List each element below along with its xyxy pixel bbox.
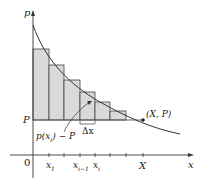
origin-label: 0	[24, 158, 30, 168]
tick-xim1: xi−1	[73, 161, 89, 172]
delta-x-bracket	[80, 121, 95, 124]
diagram-graphics	[0, 0, 200, 180]
delta-x-label: Δx	[82, 127, 94, 136]
y-axis-label: p	[24, 8, 30, 18]
y-axis-arrow	[31, 10, 35, 16]
tick-X: X	[139, 161, 146, 171]
consumer-surplus-diagram: p x 0 P (X, P) Δx p(xi) − P x1 xi−1 xi X	[0, 0, 200, 180]
point-label: (X, P)	[146, 110, 171, 119]
point-XP	[141, 118, 145, 122]
tick-xi: xi	[93, 161, 100, 172]
P-label: P	[23, 115, 30, 125]
height-label: p(xi) − P	[36, 132, 75, 143]
tick-x1: x1	[46, 161, 55, 172]
riemann-rectangles	[33, 49, 126, 120]
x-axis-arrow	[188, 153, 194, 157]
x-axis-label: x	[188, 160, 194, 170]
